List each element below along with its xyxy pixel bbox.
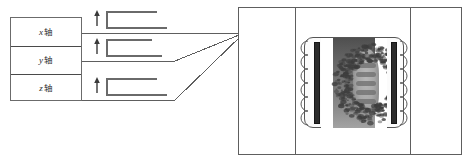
axis-label-cell-y: y轴	[11, 46, 81, 74]
gradient-arrow-y	[94, 38, 100, 54]
gradient-coil-bar-right	[391, 42, 397, 124]
scanner-housing	[238, 7, 462, 155]
axis-label-stack: x轴 y轴 z轴	[10, 17, 82, 101]
gradient-arrow-z	[94, 77, 100, 93]
axis-label-cell-x: x轴	[11, 18, 81, 46]
scan-speckle-noise	[321, 38, 387, 128]
axis-suffix-y: 轴	[44, 56, 53, 65]
coil-bracket-x	[107, 11, 167, 29]
coil-bracket-z	[107, 78, 167, 96]
coil-winding-right	[399, 38, 410, 126]
gradient-coil-bar-left	[314, 42, 320, 124]
axis-label-cell-z: z轴	[11, 74, 81, 102]
axis-suffix-z: 轴	[44, 84, 53, 93]
scanner-divider-right	[410, 8, 411, 154]
gradient-arrow-x	[94, 10, 100, 26]
lead-line-z	[82, 33, 244, 100]
scanner-divider-left	[295, 8, 296, 154]
mri-axis-block-diagram: x轴 y轴 z轴	[0, 0, 469, 162]
coil-winding-left	[298, 38, 309, 126]
anatomical-scan-image	[321, 38, 387, 128]
lead-line-y	[82, 33, 244, 61]
axis-suffix-x: 轴	[44, 28, 53, 37]
coil-bracket-y	[107, 39, 162, 57]
